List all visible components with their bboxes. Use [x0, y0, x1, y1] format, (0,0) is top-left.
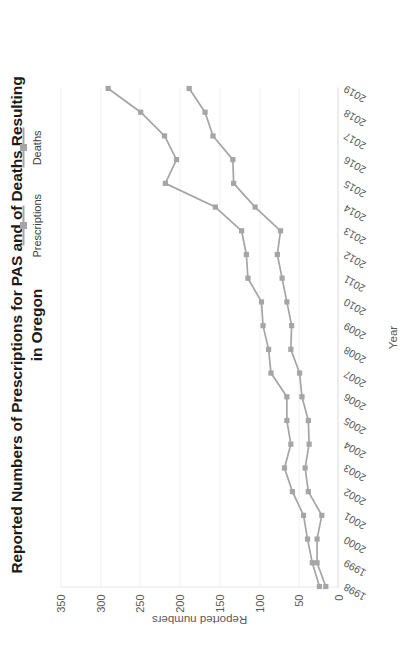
legend-item-prescriptions[interactable]: Prescriptions [18, 193, 43, 257]
y-axis-tick-label: 100 [253, 594, 265, 612]
chart-title-line-2: in Oregon [26, 0, 46, 649]
data-point-marker [202, 109, 207, 114]
data-point-marker [305, 489, 310, 494]
x-axis-tick-label: 2019 [324, 66, 350, 88]
legend-key-deaths-icon [18, 127, 28, 167]
data-point-marker [274, 251, 279, 256]
y-axis-tick-label: 0 [332, 594, 344, 600]
data-point-marker [105, 85, 110, 90]
data-point-marker [314, 560, 319, 565]
data-point-marker [231, 180, 236, 185]
data-point-marker [281, 465, 286, 470]
y-axis-tick-label: 350 [54, 594, 66, 612]
data-point-marker [299, 394, 304, 399]
data-point-marker [304, 536, 309, 541]
chart-title: Reported Numbers of Prescriptions for PA… [6, 0, 46, 649]
data-point-marker [289, 323, 294, 328]
plot-area: 050100150200250300350 199819992000200120… [60, 87, 338, 587]
data-point-marker [239, 228, 244, 233]
data-point-marker [288, 346, 293, 351]
data-point-marker [284, 394, 289, 399]
data-point-marker [284, 417, 289, 422]
data-point-marker [230, 157, 235, 162]
data-point-marker [162, 180, 167, 185]
data-point-marker [245, 275, 250, 280]
y-axis-tick-label: 50 [292, 594, 304, 606]
chart-legend: Prescriptions Deaths [18, 127, 43, 257]
y-axis-title: Reported numbers [60, 611, 338, 627]
y-axis-tick-label: 150 [213, 594, 225, 612]
legend-label-prescriptions: Prescriptions [30, 193, 43, 257]
data-point-marker [138, 109, 143, 114]
y-axis-tick-label: 250 [133, 594, 145, 612]
chart-title-line-1: Reported Numbers of Prescriptions for PA… [6, 0, 26, 649]
data-point-marker [161, 133, 166, 138]
data-point-marker [210, 133, 215, 138]
data-point-marker [319, 512, 324, 517]
series-lines [60, 87, 338, 587]
data-point-marker [277, 228, 282, 233]
rotated-chart-canvas: Reported Numbers of Prescriptions for PA… [0, 0, 413, 649]
data-point-marker [289, 489, 294, 494]
data-point-marker [302, 465, 307, 470]
legend-label-deaths: Deaths [30, 130, 43, 165]
data-point-marker [173, 157, 178, 162]
data-point-marker [314, 536, 319, 541]
data-point-marker [212, 204, 217, 209]
data-point-marker [323, 583, 328, 588]
data-point-marker [309, 560, 314, 565]
chart-stage: Reported Numbers of Prescriptions for PA… [0, 0, 413, 649]
data-point-marker [316, 583, 321, 588]
data-point-marker [258, 299, 263, 304]
data-point-marker [260, 323, 265, 328]
data-point-marker [266, 346, 271, 351]
y-axis-tick-label: 200 [173, 594, 185, 612]
legend-item-deaths[interactable]: Deaths [18, 127, 43, 167]
data-point-marker [300, 512, 305, 517]
data-point-marker [186, 85, 191, 90]
data-point-marker [305, 417, 310, 422]
series-2 [186, 85, 328, 588]
data-point-marker [296, 370, 301, 375]
data-point-marker [284, 299, 289, 304]
series-line [189, 88, 326, 586]
data-point-marker [252, 204, 257, 209]
data-point-marker [306, 441, 311, 446]
data-point-marker [243, 251, 248, 256]
y-axis-tick-label: 300 [94, 594, 106, 612]
series-line [108, 88, 319, 586]
series-1 [105, 85, 321, 588]
legend-key-prescriptions-icon [18, 205, 28, 245]
x-axis-title: Year [386, 87, 398, 587]
data-point-marker [288, 441, 293, 446]
data-point-marker [268, 370, 273, 375]
data-point-marker [279, 275, 284, 280]
